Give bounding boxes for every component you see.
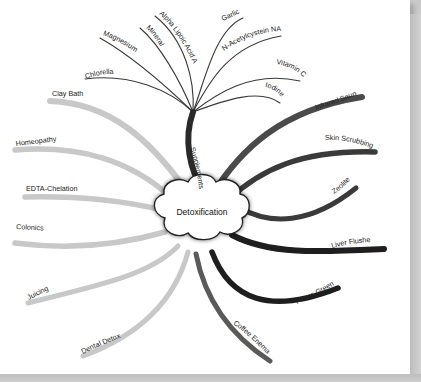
svg-text:Skin Scrubbing: Skin Scrubbing — [325, 133, 375, 150]
central-topic-label: Detoxification — [176, 207, 227, 217]
branch-line-edta — [25, 197, 162, 210]
node-magnesium[interactable]: Magnesium — [102, 28, 139, 54]
branch-line-infrared-sauna — [212, 97, 362, 195]
node-minerals[interactable]: Minerals — [0, 0, 167, 48]
node-vitamin-c[interactable]: Vitamin C — [276, 57, 309, 79]
node-chlorella[interactable]: Chlorella — [83, 67, 113, 81]
node-clay-bath[interactable]: Clay Bath — [52, 89, 83, 98]
node-fibers-greens[interactable]: Fibers Greens — [0, 0, 335, 306]
branch-line-colonics — [15, 232, 165, 246]
svg-text:Chlorella: Chlorella — [83, 67, 113, 81]
node-iodine[interactable]: Iodine — [265, 80, 287, 98]
branch-line-clay-bath — [50, 101, 186, 190]
branch-line-juicing — [28, 246, 178, 303]
node-homeopathy[interactable]: Homeopathy — [15, 134, 57, 148]
supplement-labels: Chlorella Magnesium Minerals Alpha Lipoi… — [0, 0, 308, 190]
node-nac[interactable]: N-Acetylcystein NAC — [0, 0, 282, 53]
node-edta-chelation[interactable]: EDTA-Chelation — [26, 184, 77, 193]
node-alpha-lipoic-acid[interactable]: Alpha Lipoic Acid ALA — [0, 0, 200, 65]
svg-text:Minerals: Minerals — [0, 0, 167, 48]
svg-text:Vitamin C: Vitamin C — [276, 57, 309, 79]
svg-text:Alpha Lipoic Acid ALA: Alpha Lipoic Acid ALA — [0, 0, 200, 65]
svg-text:Iodine: Iodine — [265, 80, 287, 98]
mind-map: Detoxification Chlorella Magnesium Miner… — [0, 0, 421, 382]
left-labels: Clay Bath Homeopathy EDTA-Chelation Colo… — [15, 89, 122, 356]
svg-text:Fibers Greens: Fibers Greens — [0, 0, 335, 306]
svg-text:N-Acetylcystein NAC: N-Acetylcystein NAC — [0, 0, 282, 53]
node-colonics[interactable]: Colonics — [16, 222, 44, 232]
node-skin-scrubbing[interactable]: Skin Scrubbing — [325, 133, 375, 150]
svg-text:Magnesium: Magnesium — [102, 28, 139, 54]
